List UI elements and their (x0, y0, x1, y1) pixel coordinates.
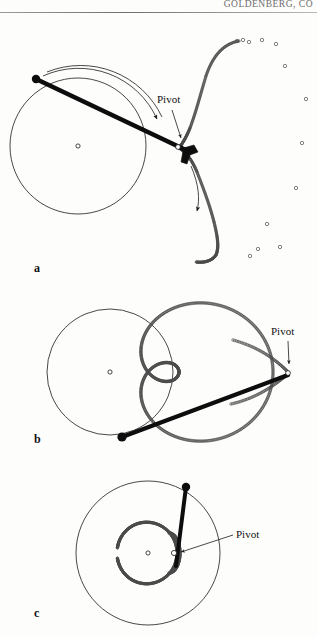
panel-a-crank-dot (32, 75, 40, 83)
speckle (283, 64, 286, 67)
panel-a-bar (36, 79, 190, 152)
page-canvas: GOLDENBERG, CO (0, 0, 317, 637)
panel-b-pivot-point (286, 371, 291, 376)
panel-b-label: b (34, 432, 41, 446)
speckle (294, 186, 297, 189)
speckle (241, 38, 244, 41)
panel-b-pivot-arrow (288, 341, 289, 364)
panel-a-center-marker (76, 144, 80, 148)
panel-b-center-marker (108, 370, 112, 374)
speckle (247, 40, 250, 43)
speckle (278, 245, 281, 248)
speckle (300, 141, 303, 144)
panel-c-crank-dot (182, 483, 190, 491)
speckle (304, 97, 307, 100)
panel-c-label: c (34, 606, 40, 620)
speckle (248, 254, 251, 257)
speckle (256, 247, 259, 250)
panel-b-pivot-label: Pivot (271, 325, 294, 337)
speckle (260, 38, 263, 41)
panel-a-pivot-point (176, 145, 181, 150)
panel-c-pivot-point (171, 550, 176, 555)
speckle (274, 42, 277, 45)
panel-c: Pivot c (34, 481, 259, 625)
panel-c-center-marker (146, 551, 150, 555)
figure-diagram: Pivot a Pivot b Pivot c (0, 0, 317, 637)
panel-c-pivot-label: Pivot (236, 528, 259, 540)
panel-c-pivot-leader (181, 535, 233, 552)
panel-b: Pivot b (34, 302, 294, 446)
panel-a: Pivot a (10, 38, 308, 275)
panel-a-speckles (235, 38, 307, 257)
panel-a-pivot-arrow (172, 110, 181, 138)
panel-a-pivot-label: Pivot (157, 93, 180, 105)
panel-a-label: a (34, 261, 40, 275)
panel-b-crank-dot (117, 432, 126, 441)
speckle (265, 222, 268, 225)
